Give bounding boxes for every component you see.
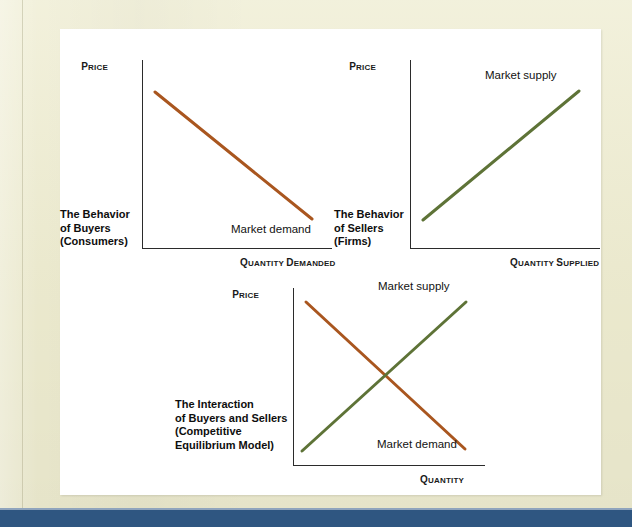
market-supply-curve (423, 91, 579, 220)
caption-line: Equilibrium Model) (175, 439, 287, 453)
footer-bar (0, 508, 632, 527)
caption-line: (Competitive (175, 425, 287, 439)
caption-line: (Consumers) (60, 235, 134, 249)
caption-line: The Interaction (175, 398, 287, 412)
interaction-curves-svg (175, 276, 601, 495)
caption-sellers: The Behavior of Sellers (Firms) (334, 208, 408, 249)
curve-label-market-supply-sellers: Market supply (485, 70, 557, 82)
caption-line: The Behavior (60, 208, 134, 222)
textbook-page: PRICE QUANTITY DEMANDED Market demand Th… (0, 0, 632, 527)
figure-panel: PRICE QUANTITY DEMANDED Market demand Th… (60, 29, 601, 495)
caption-buyers: The Behavior of Buyers (Consumers) (60, 208, 134, 249)
caption-interaction: The Interaction of Buyers and Sellers (C… (175, 398, 287, 452)
caption-line: of Sellers (334, 222, 408, 236)
market-demand-curve (155, 92, 312, 219)
caption-line: of Buyers and Sellers (175, 412, 287, 426)
caption-line: of Buyers (60, 222, 134, 236)
caption-line: (Firms) (334, 235, 408, 249)
curve-label-market-supply-interaction: Market supply (378, 281, 450, 293)
curve-label-market-demand-buyers: Market demand (231, 224, 311, 236)
panel-interaction: PRICE QUANTITY Market supply Market dema… (175, 276, 601, 495)
page-gutter-line (22, 0, 23, 510)
panel-buyers: PRICE QUANTITY DEMANDED Market demand Th… (60, 29, 332, 269)
caption-line: The Behavior (334, 208, 408, 222)
curve-label-market-demand-interaction: Market demand (377, 439, 457, 451)
panel-sellers: PRICE QUANTITY SUPPLIED Market supply Th… (328, 29, 601, 269)
